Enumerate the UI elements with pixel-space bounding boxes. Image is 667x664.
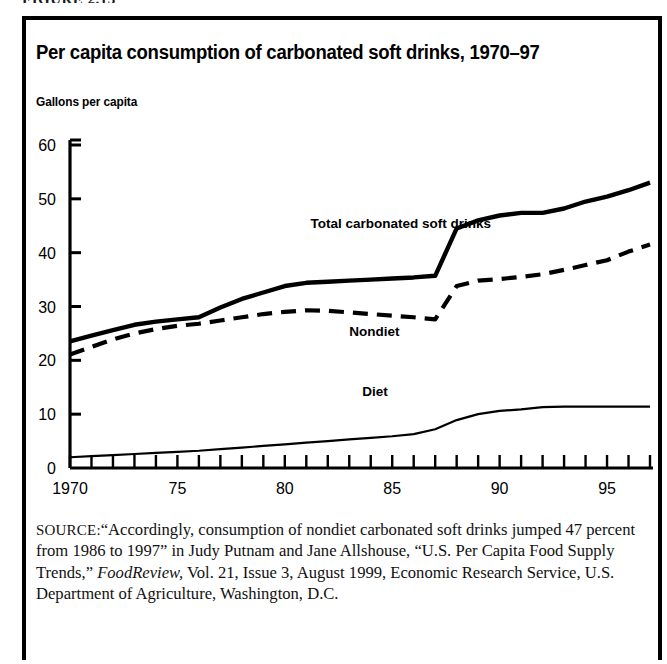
x-tick-label: 75 bbox=[169, 480, 187, 497]
series-label-2: Nondiet bbox=[349, 324, 400, 339]
y-tick-label: 60 bbox=[38, 137, 56, 154]
source-note: SOURCE:“Accordingly, consumption of nond… bbox=[36, 519, 646, 605]
series-label-1: Total carbonated soft drinks bbox=[311, 216, 492, 231]
x-tick-label: 95 bbox=[598, 480, 616, 497]
source-publication-title: FoodReview, bbox=[97, 563, 183, 582]
x-tick-label: 85 bbox=[383, 480, 401, 497]
y-tick-label: 30 bbox=[38, 299, 56, 316]
series-line-3 bbox=[70, 407, 650, 458]
figure-container: FIGURE 2.13 Per capita consumption of ca… bbox=[0, 0, 667, 664]
chart-svg: 010203040506019707580859095Total carbona… bbox=[0, 0, 667, 510]
y-tick-label: 0 bbox=[47, 460, 56, 477]
y-tick-label: 10 bbox=[38, 406, 56, 423]
series-line-1 bbox=[70, 183, 650, 342]
series-label-3: Diet bbox=[362, 384, 388, 399]
x-tick-label: 1970 bbox=[52, 480, 88, 497]
y-tick-label: 50 bbox=[38, 191, 56, 208]
source-prefix: SOURCE: bbox=[36, 522, 101, 538]
y-tick-label: 40 bbox=[38, 245, 56, 262]
y-tick-label: 20 bbox=[38, 352, 56, 369]
x-tick-label: 90 bbox=[491, 480, 509, 497]
x-tick-label: 80 bbox=[276, 480, 294, 497]
